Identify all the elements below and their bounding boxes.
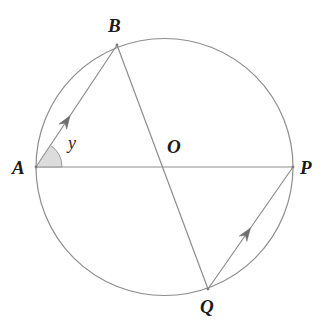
geometry-canvas [0,0,332,326]
geometry-figure: A B O P Q y [0,0,332,326]
arrowhead-ab-icon [59,116,70,129]
arrowhead-qp-icon [239,228,250,241]
vertex-label-a: A [12,158,25,177]
vertex-label-p: P [300,158,312,177]
angle-label-y: y [68,134,76,152]
center-label-o: O [167,137,181,156]
vertex-dot-p [292,166,295,169]
vertex-label-b: B [108,16,121,35]
angle-arc-y [36,145,62,167]
vertex-dot-a [35,166,38,169]
vertex-label-q: Q [200,297,214,316]
vertex-dot-q [207,288,210,291]
vertex-dot-b [116,44,119,47]
